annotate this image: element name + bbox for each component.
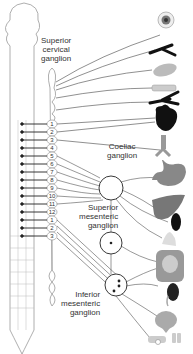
- bronchi-icon: [150, 92, 178, 104]
- svg-text:12: 12: [49, 209, 56, 215]
- label-line: Superior: [41, 36, 71, 45]
- coeliac-ganglion: [99, 176, 123, 200]
- label-line: Superior: [79, 203, 118, 212]
- label-line: ganglion: [61, 308, 100, 317]
- blood-vessel-icon: [150, 45, 175, 55]
- label-line: mesenteric: [61, 299, 100, 308]
- svg-text:11: 11: [49, 201, 56, 207]
- label-coeliac-ganglion: Coeliac ganglion: [107, 142, 137, 160]
- svg-text:10: 10: [49, 193, 56, 199]
- label-line: ganglion: [107, 151, 137, 160]
- label-superior-mesenteric-ganglion: Superior mesenteric ganglion: [79, 203, 118, 230]
- parotid-gland-icon: [152, 85, 176, 91]
- eye-icon: [158, 12, 174, 28]
- label-line: Inferior: [61, 290, 100, 299]
- label-line: mesenteric: [79, 212, 118, 221]
- stomach-icon: [152, 160, 186, 186]
- spleen-icon: [171, 213, 181, 231]
- liver-icon: [152, 195, 185, 219]
- label-line: ganglion: [79, 221, 118, 230]
- label-inferior-mesenteric-ganglion: Inferior mesenteric ganglion: [61, 290, 100, 317]
- label-line: ganglion: [41, 54, 71, 63]
- cervical-fibers: [56, 35, 160, 110]
- trachea-icon: [156, 135, 170, 156]
- splanchnic-fibers: [57, 156, 103, 204]
- pancreas-icon: [162, 232, 176, 246]
- label-superior-cervical-ganglion: Superior cervical ganglion: [41, 36, 71, 63]
- heart-icon: [156, 104, 178, 131]
- label-line: cervical: [41, 45, 71, 54]
- kidney-icon: [167, 283, 179, 301]
- label-line: Coeliac: [107, 142, 137, 151]
- inferior-mesenteric-ganglion: [105, 274, 127, 296]
- preganglionic-fibers: [21, 123, 47, 238]
- genitalia-icon: [148, 333, 181, 345]
- salivary-gland-icon: [152, 61, 178, 79]
- bladder-icon: [155, 311, 177, 329]
